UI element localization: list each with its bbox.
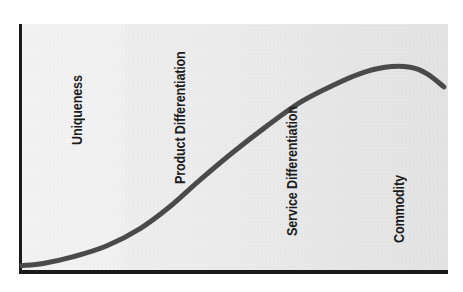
band-label-uniqueness-text: Uniqueness	[69, 75, 84, 145]
band-label-service-differentiation-text: Service Differentiation	[284, 106, 299, 236]
band-label-product-differentiation: Product Differentiation	[172, 26, 187, 184]
band-label-uniqueness: Uniqueness	[69, 62, 84, 145]
x-axis-line	[19, 270, 448, 274]
band-label-commodity: Commodity	[391, 162, 406, 243]
band-label-commodity-text: Commodity	[391, 175, 406, 243]
value-curve-figure: Uniqueness Product Differentiation Servi…	[0, 0, 463, 292]
y-axis-line	[19, 24, 22, 274]
plot-area	[21, 24, 448, 273]
band-label-product-differentiation-text: Product Differentiation	[172, 51, 187, 184]
plot-background-texture	[21, 24, 448, 273]
band-label-service-differentiation: Service Differentiation	[284, 81, 299, 236]
